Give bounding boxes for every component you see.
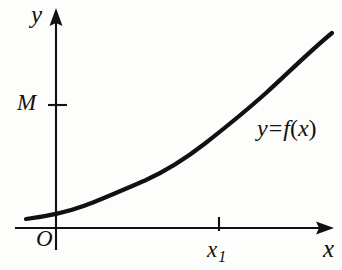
y-tick-label-M: M [17,91,36,114]
x-axis-label: x [323,236,334,261]
curve-label-paren-open: ( [290,115,298,141]
curve-label-equals: = [268,115,284,141]
origin-label: O [36,227,53,250]
curve-label-y: y [257,115,268,141]
graph-figure: y x O M x1 y=f(x) [0,0,342,270]
curve-label-variable: x [298,115,309,141]
x-tick-label-x1: x1 [207,238,226,265]
curve-equation-label: y=f(x) [257,116,317,140]
x-tick-label-base: x [207,237,217,262]
curve-label-f: f [283,115,290,141]
x-tick-label-subscript: 1 [217,248,226,265]
curve-label-paren-close: ) [309,115,317,141]
y-axis-label: y [31,2,42,27]
